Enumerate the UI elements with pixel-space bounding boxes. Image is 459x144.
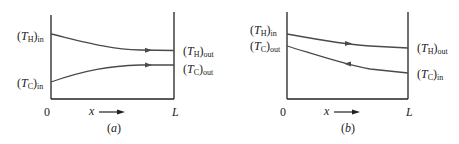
panel-b-x-arrow xyxy=(334,110,360,115)
label-tc-in: (TC)in xyxy=(417,68,443,84)
symbol: T xyxy=(254,23,261,37)
symbol: T xyxy=(421,41,428,55)
axis-var-label: x xyxy=(89,104,94,119)
cold-stream-curve xyxy=(287,46,408,73)
label-th-out: (TH)out xyxy=(183,45,214,61)
symbol: T xyxy=(187,62,194,76)
suffix: out xyxy=(437,47,447,56)
suffix: in xyxy=(437,73,443,82)
axis-end-label: L xyxy=(172,105,179,120)
arrow-right-icon xyxy=(352,110,360,115)
label-th-in: (TH)in xyxy=(250,24,277,40)
arrow-right-icon xyxy=(117,110,125,115)
suffix: in xyxy=(270,29,276,38)
hot-stream-curve xyxy=(51,34,174,51)
heat-exchanger-diagram xyxy=(0,0,459,144)
symbol: T xyxy=(21,76,28,90)
panel-a-x-arrow xyxy=(99,110,125,115)
panel-a-curves xyxy=(51,34,174,82)
label-tc-out: (TC)out xyxy=(250,40,280,56)
label-tc-in: (TC)in xyxy=(17,77,43,93)
panel-a-caption: (a) xyxy=(107,121,121,136)
label-th-out: (TH)out xyxy=(417,42,448,58)
panel-b-axes xyxy=(287,12,408,99)
symbol: T xyxy=(421,67,428,81)
subscript: H xyxy=(428,47,434,56)
flow-arrow-right-icon xyxy=(345,41,352,46)
panel-b-caption: (b) xyxy=(341,121,355,136)
label-tc-out: (TC)out xyxy=(183,63,213,79)
subscript: C xyxy=(428,73,433,82)
axis-var-label: x xyxy=(324,104,329,119)
axis-origin-label: 0 xyxy=(44,105,50,120)
panel-a-axes xyxy=(51,12,174,99)
suffix: in xyxy=(37,35,43,44)
symbol: T xyxy=(187,44,194,58)
flow-arrow-right-icon xyxy=(145,48,152,53)
panel-b-curves xyxy=(287,34,408,73)
cold-stream-curve xyxy=(51,65,174,82)
label-th-in: (TH)in xyxy=(17,30,44,46)
hot-stream-curve xyxy=(287,34,408,48)
caption-letter: a xyxy=(111,121,117,135)
flow-arrow-right-icon xyxy=(145,63,152,68)
subscript: H xyxy=(261,29,267,38)
subscript: H xyxy=(28,35,34,44)
suffix: in xyxy=(37,82,43,91)
flow-arrow-left-icon xyxy=(344,62,351,67)
subscript: H xyxy=(194,50,200,59)
caption-letter: b xyxy=(345,121,351,135)
symbol: T xyxy=(254,39,261,53)
suffix: out xyxy=(203,50,213,59)
axis-origin-label: 0 xyxy=(280,105,286,120)
subscript: C xyxy=(261,45,266,54)
suffix: out xyxy=(270,45,280,54)
subscript: C xyxy=(28,82,33,91)
symbol: T xyxy=(21,29,28,43)
subscript: C xyxy=(194,68,199,77)
axis-end-label: L xyxy=(406,105,413,120)
suffix: out xyxy=(203,68,213,77)
